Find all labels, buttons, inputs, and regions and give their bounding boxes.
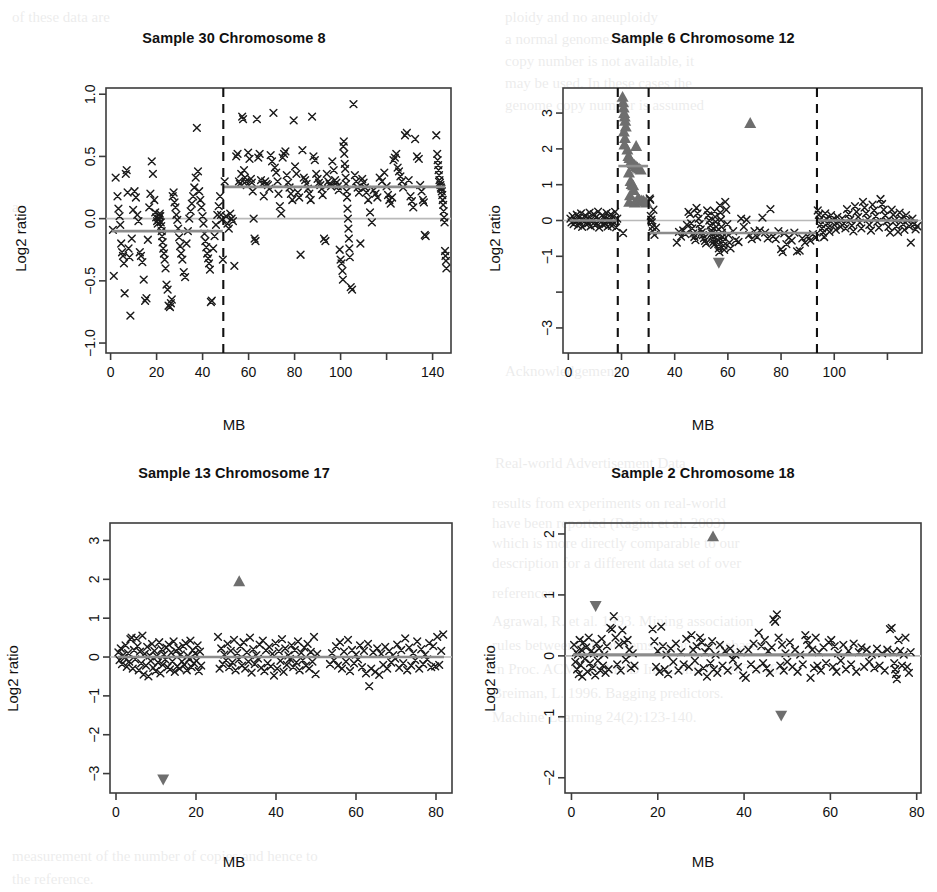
- data-point: [330, 167, 337, 174]
- series-group: [106, 88, 451, 353]
- x-tick-label: 0: [564, 364, 572, 380]
- y-axis-label: Log2 ratio: [481, 619, 498, 739]
- x-axis-label: MB: [0, 853, 468, 870]
- data-point: [267, 663, 274, 670]
- data-point: [443, 265, 450, 272]
- data-point: [221, 178, 228, 185]
- data-point: [740, 224, 747, 231]
- data-point: [359, 664, 366, 671]
- data-point: [192, 174, 199, 181]
- series-group: [565, 530, 921, 721]
- data-point: [342, 165, 349, 172]
- data-point: [196, 188, 203, 195]
- x-tick-label: 0: [568, 804, 576, 820]
- y-tick-label: −3: [86, 765, 102, 781]
- data-point: [162, 265, 169, 272]
- data-point: [347, 668, 354, 675]
- data-point: [673, 239, 680, 246]
- data-point: [242, 665, 249, 672]
- panel-sample-2-chr-18: Sample 2 Chromosome 18 210−1−2020406080 …: [469, 465, 937, 885]
- data-point: [139, 259, 146, 266]
- data-point: [319, 192, 326, 199]
- x-tick-label: 40: [667, 364, 683, 380]
- data-point: [200, 220, 207, 227]
- data-point: [231, 637, 238, 644]
- data-point: [341, 151, 348, 158]
- data-point: [779, 641, 786, 648]
- data-point: [183, 240, 190, 247]
- data-point: [164, 286, 171, 293]
- data-point: [313, 170, 320, 177]
- y-tick-label: 0: [539, 216, 555, 224]
- data-point: [441, 219, 448, 226]
- data-point: [412, 136, 419, 143]
- data-point: [341, 648, 348, 655]
- x-tick-label: 60: [348, 804, 364, 820]
- data-point: [128, 235, 135, 242]
- data-point: [125, 245, 132, 252]
- data-point: [349, 286, 356, 293]
- data-point: [269, 158, 276, 165]
- data-point: [336, 246, 343, 253]
- data-point: [672, 640, 679, 647]
- data-point: [895, 229, 902, 236]
- data-point: [309, 113, 316, 120]
- y-tick-label: 1: [86, 614, 102, 622]
- y-tick-label: −1: [541, 709, 557, 725]
- x-tick-label: 100: [329, 364, 353, 380]
- data-point: [877, 196, 884, 203]
- data-point: [276, 203, 283, 210]
- data-point: [114, 193, 121, 200]
- x-tick-label: 100: [823, 364, 847, 380]
- data-point: [323, 170, 330, 177]
- data-point: [176, 234, 183, 241]
- data-point: [755, 629, 762, 636]
- data-point: [193, 124, 200, 131]
- data-point: [266, 644, 273, 651]
- data-point: [704, 673, 711, 680]
- data-point: [275, 190, 282, 197]
- data-point: [402, 635, 409, 642]
- data-point: [727, 245, 734, 252]
- x-tick-label: 80: [773, 364, 789, 380]
- data-point: [118, 240, 125, 247]
- data-point: [365, 197, 372, 204]
- data-point: [620, 230, 627, 237]
- data-point: [277, 658, 284, 665]
- data-point: [179, 256, 186, 263]
- data-point: [598, 635, 605, 642]
- data-point: [147, 658, 154, 665]
- data-point: [143, 295, 150, 302]
- x-tick-label: 20: [149, 364, 165, 380]
- data-point: [786, 639, 793, 646]
- data-point: [365, 640, 372, 647]
- data-point: [274, 178, 281, 185]
- data-point: [307, 649, 314, 656]
- plot-frame: [565, 523, 921, 793]
- data-point: [311, 633, 318, 640]
- panel-sample-30-chr-8: Sample 30 Chromosome 8 1.00.50.0−0.5−1.0…: [0, 30, 468, 445]
- data-point: [289, 197, 296, 204]
- data-point: [346, 245, 353, 252]
- cgh-figure: Sample 30 Chromosome 8 1.00.50.0−0.5−1.0…: [0, 0, 937, 892]
- data-point: [658, 623, 665, 630]
- data-point: [376, 671, 383, 678]
- x-tick-label: 80: [428, 804, 444, 820]
- data-point: [261, 668, 268, 675]
- data-point: [346, 254, 353, 261]
- data-point: [329, 158, 336, 165]
- data-point: [345, 235, 352, 242]
- data-point: [881, 667, 888, 674]
- data-point: [407, 193, 414, 200]
- data-point: [260, 193, 267, 200]
- data-point: [794, 668, 801, 675]
- data-point: [198, 204, 205, 211]
- y-tick-label: −1: [539, 248, 555, 264]
- y-tick-label: 2: [86, 575, 102, 583]
- data-point: [271, 672, 278, 679]
- y-tick-label: 0.0: [82, 209, 98, 229]
- y-tick-label: −0.5: [82, 267, 98, 295]
- x-axis-label: MB: [469, 416, 937, 433]
- data-point: [767, 206, 774, 213]
- data-point: [410, 204, 417, 211]
